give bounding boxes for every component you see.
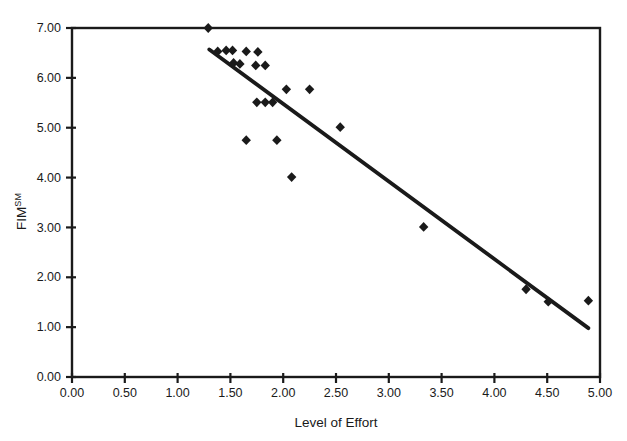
x-tick-label: 2.50 bbox=[324, 386, 348, 400]
x-tick-label: 1.00 bbox=[165, 386, 189, 400]
y-tick-label: 6.00 bbox=[37, 71, 61, 85]
y-axis-title: FIMSM bbox=[13, 193, 30, 230]
data-point bbox=[251, 60, 260, 70]
chart-page: 0.001.002.003.004.005.006.007.000.000.50… bbox=[0, 0, 627, 441]
data-point bbox=[419, 222, 428, 232]
data-point bbox=[305, 84, 314, 94]
data-point bbox=[261, 60, 270, 70]
plot-area: 0.001.002.003.004.005.006.007.000.000.50… bbox=[37, 21, 613, 400]
x-tick-label: 0.50 bbox=[113, 386, 137, 400]
data-point bbox=[287, 172, 296, 182]
trend-line bbox=[209, 49, 588, 328]
x-tick-label: 5.00 bbox=[588, 386, 612, 400]
data-point bbox=[242, 135, 251, 145]
data-point bbox=[228, 46, 237, 56]
y-tick-label: 5.00 bbox=[37, 121, 61, 135]
y-axis-title-base: FIM bbox=[14, 207, 29, 230]
y-tick-label: 2.00 bbox=[37, 270, 61, 284]
data-point bbox=[252, 97, 261, 107]
x-axis-title: Level of Effort bbox=[294, 415, 377, 430]
data-point bbox=[282, 84, 291, 94]
x-tick-label: 4.00 bbox=[482, 386, 506, 400]
scatter-chart: 0.001.002.003.004.005.006.007.000.000.50… bbox=[0, 0, 627, 441]
y-tick-label: 7.00 bbox=[37, 21, 61, 35]
data-point bbox=[242, 47, 251, 57]
data-point bbox=[336, 122, 345, 132]
y-tick-label: 4.00 bbox=[37, 171, 61, 185]
data-point bbox=[272, 135, 281, 145]
data-point bbox=[253, 47, 262, 57]
x-tick-label: 2.00 bbox=[271, 386, 295, 400]
x-tick-label: 0.00 bbox=[60, 386, 84, 400]
x-tick-label: 3.50 bbox=[429, 386, 453, 400]
x-tick-label: 3.00 bbox=[377, 386, 401, 400]
y-tick-label: 3.00 bbox=[37, 221, 61, 235]
data-point bbox=[204, 23, 213, 33]
y-axis-title-superscript: SM bbox=[13, 193, 23, 207]
y-tick-label: 1.00 bbox=[37, 320, 61, 334]
x-tick-label: 1.50 bbox=[218, 386, 242, 400]
plot-frame bbox=[72, 28, 600, 377]
x-tick-label: 4.50 bbox=[535, 386, 559, 400]
data-point bbox=[584, 296, 593, 306]
y-tick-label: 0.00 bbox=[37, 370, 61, 384]
